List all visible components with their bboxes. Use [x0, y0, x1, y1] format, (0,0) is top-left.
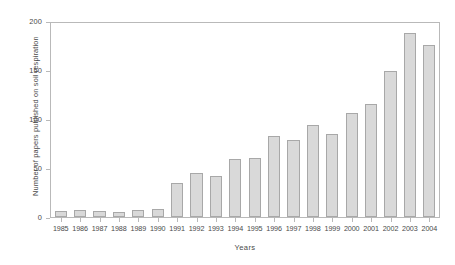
y-axis-tick-label: 100: [29, 115, 42, 124]
bar: [152, 209, 164, 217]
bar-slot: [190, 23, 202, 217]
bar: [113, 212, 125, 217]
bar: [171, 183, 183, 217]
bar-slot: [93, 23, 105, 217]
bar-slot: [268, 23, 280, 217]
y-axis-tick-label: 50: [34, 164, 42, 173]
x-axis-tick-label: 2004: [420, 224, 439, 233]
x-axis-tick-label: 1992: [187, 224, 206, 233]
bar: [404, 33, 416, 217]
x-axis-labels: 1985198619871988198919901991199219931994…: [51, 224, 439, 236]
x-axis-tick-mark: [391, 218, 392, 222]
bar-slot: [152, 23, 164, 217]
bar: [229, 159, 241, 217]
bar: [384, 71, 396, 217]
x-axis-tick-label: 1998: [303, 224, 322, 233]
bar-slot: [423, 23, 435, 217]
y-axis-tick-label: 0: [38, 213, 42, 222]
bar-slot: [307, 23, 319, 217]
bars-container: [51, 23, 439, 217]
bar: [93, 211, 105, 217]
x-axis-tick-mark: [313, 218, 314, 222]
bar-slot: [210, 23, 222, 217]
x-axis-tick-mark: [61, 218, 62, 222]
x-axis-tick-label: 1994: [226, 224, 245, 233]
bar: [268, 136, 280, 217]
y-axis-tick-mark: [46, 120, 50, 121]
y-axis-tick-mark: [46, 218, 50, 219]
x-axis-tick-mark: [158, 218, 159, 222]
x-axis-tick-label: 1985: [51, 224, 70, 233]
x-axis-tick-mark: [255, 218, 256, 222]
y-axis-tick-label: 150: [29, 66, 42, 75]
bar-slot: [249, 23, 261, 217]
bar: [365, 104, 377, 217]
y-axis-tick: 150: [0, 71, 50, 72]
x-axis-tick-label: 1995: [245, 224, 264, 233]
y-axis-tick: 50: [0, 169, 50, 170]
y-axis-tick-mark: [46, 22, 50, 23]
x-axis-tick-mark: [274, 218, 275, 222]
bar-slot: [132, 23, 144, 217]
bar: [346, 113, 358, 217]
x-axis-tick-mark: [294, 218, 295, 222]
x-axis-tick-label: 1990: [148, 224, 167, 233]
y-axis-tick-mark: [46, 169, 50, 170]
bar-slot: [384, 23, 396, 217]
bar: [132, 210, 144, 217]
x-axis-tick-label: 1991: [167, 224, 186, 233]
bar: [423, 45, 435, 217]
x-axis-tick-label: 2002: [381, 224, 400, 233]
y-axis-tick: 100: [0, 120, 50, 121]
x-axis-tick-label: 2003: [400, 224, 419, 233]
x-axis-tick-mark: [352, 218, 353, 222]
x-axis-tick-label: 1989: [129, 224, 148, 233]
bar: [55, 211, 67, 217]
x-axis-tick-mark: [119, 218, 120, 222]
x-axis-ticks: [51, 218, 439, 222]
bar: [287, 140, 299, 217]
x-axis-tick-mark: [332, 218, 333, 222]
bar: [190, 173, 202, 217]
x-axis-tick-mark: [80, 218, 81, 222]
bar: [326, 134, 338, 217]
x-axis-tick-label: 1987: [90, 224, 109, 233]
x-axis-tick-mark: [235, 218, 236, 222]
x-axis-tick-mark: [371, 218, 372, 222]
y-axis-tick-label: 200: [29, 17, 42, 26]
x-axis-tick-mark: [138, 218, 139, 222]
bar: [210, 176, 222, 217]
x-axis-tick-mark: [216, 218, 217, 222]
y-axis-tick-mark: [46, 71, 50, 72]
bar-slot: [287, 23, 299, 217]
bar: [74, 210, 86, 217]
x-axis-tick-label: 1997: [284, 224, 303, 233]
x-axis-tick-mark: [197, 218, 198, 222]
x-axis-tick-mark: [410, 218, 411, 222]
x-axis-tick-label: 2001: [361, 224, 380, 233]
bar-slot: [404, 23, 416, 217]
y-axis-tick: 0: [0, 218, 50, 219]
bar-slot: [171, 23, 183, 217]
bar-slot: [74, 23, 86, 217]
x-axis-tick-mark: [429, 218, 430, 222]
bar-slot: [346, 23, 358, 217]
bar-slot: [326, 23, 338, 217]
bar-chart: Number of papers published on soil respi…: [0, 0, 455, 265]
x-axis-tick-label: 1986: [70, 224, 89, 233]
bar: [249, 158, 261, 217]
x-axis-tick-mark: [177, 218, 178, 222]
x-axis-tick-label: 1996: [264, 224, 283, 233]
x-axis-tick-label: 1999: [323, 224, 342, 233]
y-axis-tick: 200: [0, 22, 50, 23]
x-axis-tick-mark: [100, 218, 101, 222]
bar-slot: [55, 23, 67, 217]
x-axis-tick-label: 1993: [206, 224, 225, 233]
x-axis-tick-label: 2000: [342, 224, 361, 233]
bar-slot: [113, 23, 125, 217]
x-axis-tick-label: 1988: [109, 224, 128, 233]
bar-slot: [365, 23, 377, 217]
bar: [307, 125, 319, 217]
x-axis-title: Years: [50, 243, 440, 252]
bar-slot: [229, 23, 241, 217]
